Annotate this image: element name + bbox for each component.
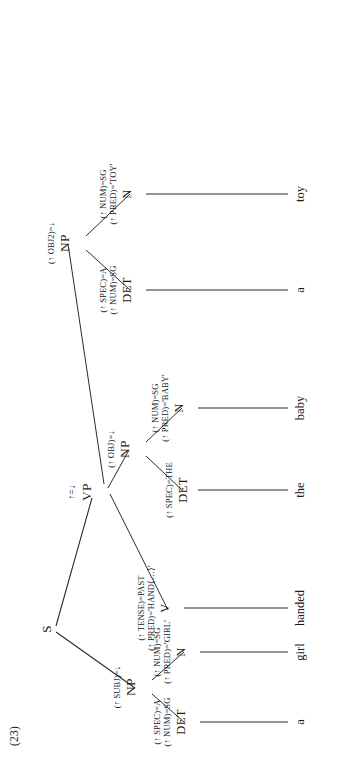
node-label-det-a1: DET bbox=[174, 709, 188, 735]
node-label-np-obj: NP bbox=[117, 440, 132, 458]
annotation-spec-a-2: (↑ SPEC)=A bbox=[98, 265, 108, 314]
tree-node-n-toy: (↑ NUM)=SG (↑ PRED)='TOY' N bbox=[98, 164, 135, 225]
annotation-head-eq: ↑=↓ bbox=[68, 483, 78, 501]
node-label-s: S bbox=[39, 625, 54, 633]
annotation-spec-the: (↑ SPEC)=THE bbox=[164, 462, 174, 517]
node-label-v-handed: V bbox=[158, 603, 172, 612]
tree-node-det-a1: (↑ SPEC)=A (↑ NUM)=SG DET bbox=[152, 697, 189, 746]
leaf-word-a2: a bbox=[293, 287, 308, 293]
annotation-obj-eq: (↑ OBJ)=↓ bbox=[106, 430, 116, 468]
leaf-word-a1: a bbox=[293, 719, 308, 725]
node-label-det-the: DET bbox=[176, 477, 190, 503]
tree-node-det-a2: (↑ SPEC)=A (↑ NUM)=SG DET bbox=[98, 265, 135, 314]
node-label-n-baby: N bbox=[172, 403, 186, 412]
node-label-n-girl: N bbox=[174, 647, 188, 656]
annotation-pred-hand: (↑ PRED)='HAND⟨…⟩' bbox=[146, 565, 156, 650]
rotated-page: (23) bbox=[0, 0, 343, 760]
node-label-vp: VP bbox=[79, 483, 94, 501]
annotation-subj-eq: (↑ SUBJ)=↓ bbox=[112, 666, 122, 708]
leaf-word-toy: toy bbox=[293, 186, 308, 202]
annotation-tense-past: (↑ TENSE)=PAST bbox=[136, 565, 146, 650]
leaf-word-girl: girl bbox=[293, 643, 308, 660]
node-label-np-subj: NP bbox=[123, 678, 138, 696]
tree-node-n-baby: (↑ NUM)=SG (↑ PRED)='BABY' N bbox=[150, 374, 187, 441]
leaf-word-baby: baby bbox=[293, 396, 308, 420]
leaf-word-handed: handed bbox=[293, 590, 308, 626]
syntax-tree-figure: (23) bbox=[0, 0, 343, 760]
tree-node-np-obj2: (↑ OBJ2)=↓ NP bbox=[46, 222, 72, 264]
tree-node-v-handed: (↑ TENSE)=PAST (↑ PRED)='HAND⟨…⟩' V bbox=[136, 565, 173, 650]
annotation-spec-a-1: (↑ SPEC)=A bbox=[152, 697, 162, 746]
annotation-pred-baby: (↑ PRED)='BABY' bbox=[160, 374, 170, 441]
tree-node-det-the: (↑ SPEC)=THE DET bbox=[164, 462, 190, 517]
annotation-num-sg-toy: (↑ NUM)=SG bbox=[98, 164, 108, 225]
annotation-num-sg-baby: (↑ NUM)=SG bbox=[150, 374, 160, 441]
tree-node-np-subj: (↑ SUBJ)=↓ NP bbox=[112, 666, 138, 708]
tree-node-s: S bbox=[38, 625, 54, 633]
leaf-word-the: the bbox=[293, 482, 308, 497]
annotation-pred-toy: (↑ PRED)='TOY' bbox=[108, 164, 118, 225]
edge-s-vp bbox=[56, 498, 92, 626]
tree-node-np-obj: (↑ OBJ)=↓ NP bbox=[106, 430, 132, 468]
node-label-n-toy: N bbox=[120, 189, 134, 198]
node-label-np-obj2: NP bbox=[57, 234, 72, 252]
annotation-obj2-eq: (↑ OBJ2)=↓ bbox=[46, 222, 56, 264]
annotation-num-sg-2: (↑ NUM)=SG bbox=[108, 265, 118, 314]
annotation-num-sg-1: (↑ NUM)=SG bbox=[162, 697, 172, 746]
node-label-det-a2: DET bbox=[120, 277, 134, 303]
tree-node-vp: ↑=↓ VP bbox=[68, 483, 94, 501]
